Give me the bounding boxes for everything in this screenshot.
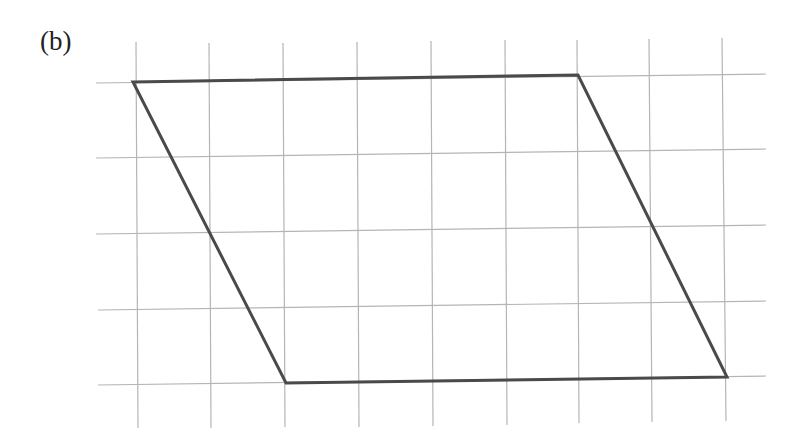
vertical-grid-line (722, 38, 726, 421)
vertical-grid-line (136, 42, 138, 428)
vertical-grid-line (431, 41, 433, 426)
horizontal-grid-line (96, 225, 766, 234)
vertical-grid-lines (136, 38, 726, 428)
vertical-grid-line (577, 40, 579, 423)
vertical-grid-line (283, 43, 285, 427)
vertical-grid-line (505, 40, 507, 425)
grid-parallelogram-diagram (0, 0, 803, 447)
vertical-grid-line (649, 39, 652, 422)
vertical-grid-line (357, 42, 359, 427)
